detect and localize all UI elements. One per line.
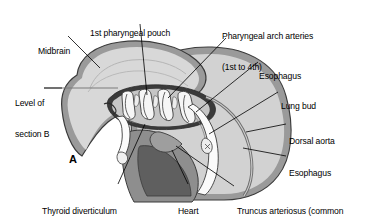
label-thyroid-diverticulum: Thyroid diverticulum (primordium of thyr… xyxy=(42,186,149,222)
label-truncus-arteriosus: Truncus arteriosus (common arterial trun… xyxy=(237,186,343,222)
label-heart: Heart xyxy=(178,186,199,222)
embryo-figure: Midbrain 1st pharyngeal pouch Pharyngeal… xyxy=(0,0,385,222)
label-midbrain: Midbrain xyxy=(38,26,70,77)
label-level-of-section-b: Level of section B xyxy=(15,78,49,160)
panel-letter-a: A xyxy=(69,153,77,165)
thyroid-diverticulum-structure xyxy=(116,116,130,155)
label-first-pharyngeal-pouch-line-1: 1st pharyngeal pouch xyxy=(90,28,170,38)
label-level-of-section-b-line-2: section B xyxy=(15,129,49,139)
label-dorsal-aorta-line-1: Dorsal aorta xyxy=(289,136,335,146)
label-pharyngeal-arch-arteries-line-1: Pharyngeal arch arteries xyxy=(222,31,313,41)
label-thyroid-diverticulum-line-1: Thyroid diverticulum xyxy=(42,206,149,216)
label-first-pharyngeal-pouch: 1st pharyngeal pouch xyxy=(90,8,170,59)
label-midbrain-line-1: Midbrain xyxy=(38,46,70,56)
label-heart-line-1: Heart xyxy=(178,206,199,216)
label-truncus-arteriosus-line-1: Truncus arteriosus (common xyxy=(237,206,343,216)
label-lung-bud-line-1: Lung bud xyxy=(281,101,316,111)
thyroid-gland-bulb xyxy=(117,152,128,164)
label-level-of-section-b-line-1: Level of xyxy=(15,98,49,108)
pharyngeal-pouch-3 xyxy=(172,97,177,109)
label-esophagus-lower-line-1: Esophagus xyxy=(289,168,331,178)
pharyngeal-arch-1 xyxy=(122,91,135,119)
